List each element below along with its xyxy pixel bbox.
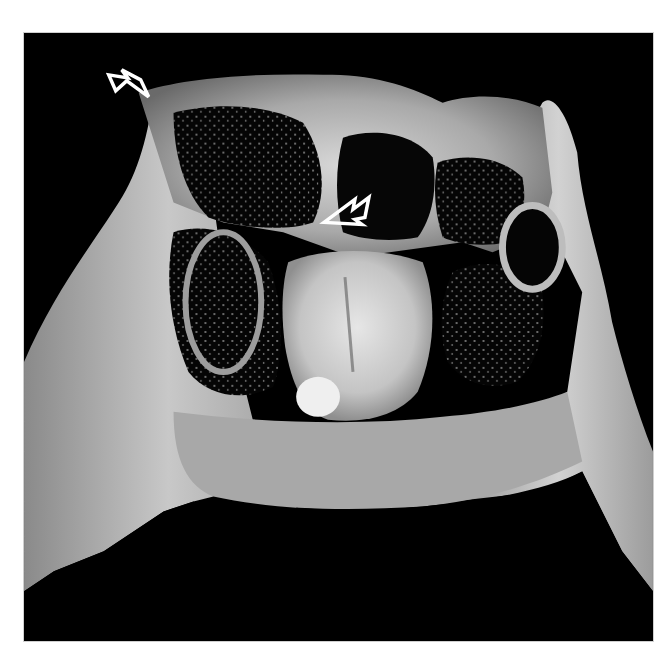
specimen-photo: [23, 32, 654, 642]
specimen-illustration: [24, 33, 653, 641]
mass-bright-spot: [296, 377, 340, 417]
arrow-annotation-1: [109, 70, 149, 97]
right-ring-structure: [502, 205, 562, 289]
